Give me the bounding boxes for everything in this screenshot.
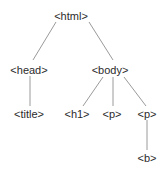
node-head: <head>: [10, 65, 47, 76]
tree-edges: [0, 0, 164, 177]
node-html: <html>: [54, 11, 88, 22]
edge-body-h1: [83, 77, 103, 106]
dom-tree-diagram: <html> <head> <body> <title> <h1> <p> <p…: [0, 0, 164, 177]
edge-body-p2: [124, 77, 146, 106]
node-body: <body>: [92, 65, 129, 76]
node-b: <b>: [138, 153, 157, 164]
edge-html-head: [33, 22, 56, 60]
edge-html-body: [89, 22, 113, 60]
node-p2: <p>: [138, 109, 157, 120]
node-title: <title>: [14, 109, 44, 120]
node-p1: <p>: [103, 109, 122, 120]
node-h1: <h1>: [64, 109, 89, 120]
